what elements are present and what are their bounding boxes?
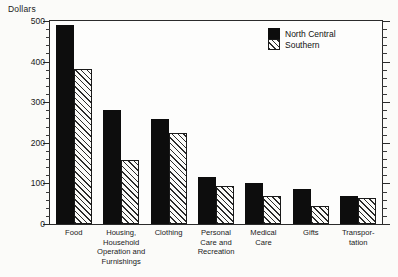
bar xyxy=(74,69,92,224)
bar xyxy=(293,189,311,224)
x-axis-category-label: Clothing xyxy=(155,228,183,238)
x-axis-category-label: Gifts xyxy=(303,228,319,238)
legend-item: North Central xyxy=(268,28,336,39)
x-axis-category-label: Housing, Household Operation and Furnish… xyxy=(97,228,145,266)
bar xyxy=(245,183,263,224)
bar xyxy=(151,119,169,224)
chart-legend: North CentralSouthern xyxy=(268,28,336,50)
bar xyxy=(340,196,358,224)
bar xyxy=(198,177,216,224)
bar xyxy=(103,110,121,224)
chart-page: Dollars 0100200300400500 North CentralSo… xyxy=(0,0,398,277)
bar xyxy=(56,25,74,224)
x-axis-category-label: Transpor- tation xyxy=(342,228,375,247)
bar xyxy=(121,160,139,224)
bar xyxy=(216,186,234,224)
bar xyxy=(311,206,329,224)
legend-swatch-icon xyxy=(268,28,280,39)
x-axis-category-label: Personal Care and Recreation xyxy=(198,228,235,257)
legend-item: Southern xyxy=(268,39,336,50)
legend-label: North Central xyxy=(285,29,336,39)
x-axis-category-label: Food xyxy=(65,228,82,238)
bar xyxy=(169,133,187,224)
legend-swatch-icon xyxy=(268,39,280,50)
bar xyxy=(263,196,281,224)
legend-label: Southern xyxy=(285,40,320,50)
bar xyxy=(358,198,376,224)
x-axis-category-label: Medical Care xyxy=(250,228,276,247)
